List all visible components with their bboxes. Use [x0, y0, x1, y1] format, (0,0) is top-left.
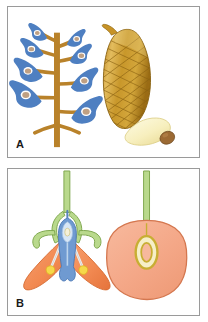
panel-b-label: B: [16, 298, 24, 309]
anther-left: [46, 266, 55, 275]
ovuliferous-scale: [71, 68, 98, 92]
sepal-left: [33, 230, 55, 248]
ovuliferous-scale: [70, 44, 92, 64]
panel-a-label: A: [16, 139, 24, 150]
flower-section-group: [24, 171, 110, 290]
fruit-seed-inner: [141, 243, 152, 262]
fruit-stalk: [144, 171, 150, 224]
branch-trunk: [54, 33, 60, 147]
ovuliferous-scale: [28, 23, 47, 41]
ovuliferous-scale: [71, 96, 103, 124]
fruit-section-group: [107, 171, 187, 300]
panel-b: B: [7, 168, 200, 316]
ovuliferous-scale: [67, 29, 86, 47]
panel-a: A: [7, 6, 200, 158]
panel-b-illustration: [8, 169, 199, 315]
panel-a-illustration: [8, 7, 199, 157]
flower-pedicel: [64, 171, 70, 212]
biology-figure: A: [0, 0, 208, 322]
gymnosperm-branch-group: [9, 23, 103, 147]
ovuliferous-scale: [20, 38, 43, 58]
cone-stalk: [102, 24, 117, 35]
sepal-right: [79, 230, 101, 248]
ovuliferous-scale: [9, 80, 42, 107]
anther-right: [79, 266, 88, 275]
ovule: [65, 228, 70, 236]
